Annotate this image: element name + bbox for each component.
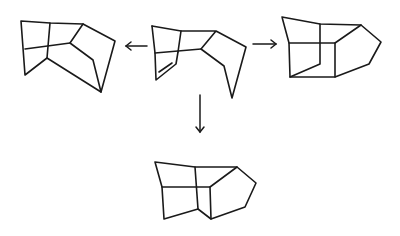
structure-center-reactant (152, 26, 246, 98)
arrow-down (196, 95, 204, 132)
structure-right-product (282, 17, 381, 77)
double-bond-inner (159, 63, 172, 72)
reaction-scheme (0, 0, 400, 236)
scheme-drawing (0, 0, 400, 236)
structure-left-product (21, 21, 115, 92)
arrow-right (253, 40, 276, 48)
structure-bottom-product (155, 162, 256, 219)
arrow-left (126, 42, 147, 50)
